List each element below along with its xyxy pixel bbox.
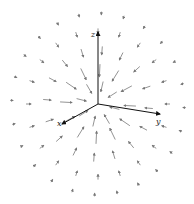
field-arrow <box>119 32 121 37</box>
field-arrow <box>112 71 119 82</box>
field-arrow <box>129 142 134 148</box>
field-arrow <box>99 64 100 77</box>
field-arrow <box>76 32 78 37</box>
field-arrow <box>94 153 95 161</box>
field-arrow <box>49 78 56 82</box>
field-arrow <box>43 99 51 100</box>
field-arrow <box>33 165 35 167</box>
field-arrow <box>102 46 103 54</box>
field-arrow <box>124 105 136 106</box>
field-arrow <box>81 68 86 79</box>
field-arrow <box>110 128 115 139</box>
field-arrow <box>73 148 77 155</box>
field-arrow <box>56 161 59 165</box>
z-axis-label: z <box>90 30 96 39</box>
field-arrow <box>134 66 140 71</box>
field-arrow <box>20 146 23 147</box>
field-arrow <box>104 115 109 124</box>
field-arrow <box>143 86 151 89</box>
field-arrow <box>56 43 59 47</box>
field-arrow <box>87 84 92 93</box>
field-arrow <box>120 119 130 126</box>
field-arrow <box>81 49 83 57</box>
field-arrow <box>179 130 182 131</box>
field-arrow <box>12 124 15 125</box>
field-arrow <box>66 82 76 89</box>
field-arrow <box>51 179 53 182</box>
field-arrow <box>76 171 78 176</box>
field-arrow <box>30 81 35 83</box>
field-arrow <box>140 126 147 130</box>
field-arrow <box>24 55 27 57</box>
field-arrow <box>152 145 156 148</box>
field-arrow <box>173 61 176 62</box>
field-arrow <box>160 41 162 43</box>
field-arrow <box>156 170 158 172</box>
field-arrow <box>137 161 140 165</box>
field-arrow <box>119 53 123 60</box>
field-arrow <box>162 126 167 128</box>
field-arrow <box>123 16 124 19</box>
field-arrow <box>162 81 167 83</box>
field-arrow <box>57 22 58 25</box>
field-arrow <box>121 86 132 92</box>
y-axis-label: y <box>155 117 161 126</box>
field-arrow <box>181 84 184 85</box>
field-arrow <box>143 26 145 29</box>
x-axis <box>62 104 98 124</box>
field-arrow <box>77 99 87 101</box>
x-axis-label: x <box>57 119 62 128</box>
field-arrow <box>77 127 84 138</box>
field-arrow <box>137 43 140 47</box>
field-arrow <box>96 131 97 144</box>
field-arrow <box>145 108 153 109</box>
field-arrow <box>119 171 121 176</box>
field-arrow <box>108 92 117 97</box>
field-arrow <box>38 36 40 38</box>
coordinate-axes <box>62 32 160 124</box>
field-arrow <box>170 152 173 154</box>
field-arrow <box>117 191 118 194</box>
field-arrow <box>113 151 115 159</box>
field-arrow <box>101 82 103 92</box>
field-arrow <box>40 145 44 148</box>
field-arrow <box>30 126 35 128</box>
field-arrow <box>79 14 80 17</box>
field-arrow <box>60 102 72 103</box>
field-arrow <box>56 136 62 141</box>
field-arrow <box>152 60 156 63</box>
field-arrow <box>14 77 17 78</box>
field-arrow <box>62 60 67 66</box>
field-arrow <box>72 189 73 192</box>
field-arrow <box>46 119 54 122</box>
field-arrow <box>93 116 95 126</box>
vector-field-diagram: x y z <box>0 0 194 204</box>
field-arrow <box>40 60 44 63</box>
field-arrow <box>138 183 139 186</box>
